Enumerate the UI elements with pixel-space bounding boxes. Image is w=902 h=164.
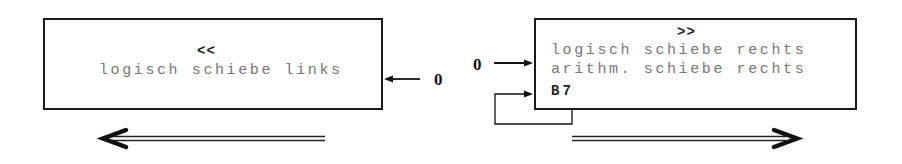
shift-right-operator: >> — [677, 24, 696, 40]
shift-right-arrow-icon — [572, 130, 797, 147]
right-input-arrow — [494, 60, 533, 67]
shift-left-input-zero: 0 — [434, 70, 443, 90]
shift-right-input-zero: 0 — [473, 55, 482, 75]
shift-left-operator: << — [197, 43, 216, 59]
left-input-arrow — [384, 76, 420, 83]
arithmetic-shift-right-label: arithm. schiebe rechts — [551, 61, 806, 78]
logical-shift-right-label: logisch schiebe rechts — [551, 42, 806, 59]
shift-left-arrow-icon — [103, 130, 325, 147]
feedback-bit-label: B7 — [551, 83, 574, 99]
shift-left-label: logisch schiebe links — [99, 62, 343, 79]
